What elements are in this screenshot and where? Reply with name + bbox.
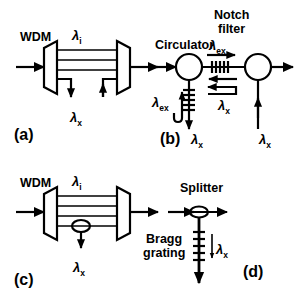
panel-b-label: (b) — [160, 130, 180, 147]
panel-c-lambda-x-symbol: λ — [72, 260, 80, 275]
panel-b-lambda-ex-left-subscript: ex — [159, 103, 169, 113]
panel-b-notch-label-line2: filter — [218, 22, 245, 36]
panel-a-lambda-i-subscript: i — [79, 36, 81, 46]
panel-b-notch-label-line1: Notch — [214, 8, 249, 22]
panel-d-label: (d) — [243, 263, 263, 280]
panel-c-lambda-x-subscript: x — [80, 268, 85, 278]
panel-b-lambda-x-drop-subscript: x — [198, 140, 203, 150]
panel-b-lambda-ex-top-symbol: λ — [208, 38, 216, 53]
panel-b-lambda-x-add-symbol: λ — [258, 132, 266, 147]
panel-d-lambda-x-symbol: λ — [215, 242, 223, 257]
panel-a-lambda-i-symbol: λ — [71, 28, 79, 43]
panel-c-wdm-label: WDM — [20, 176, 51, 190]
panel-b-circulator-label: Circulator — [155, 38, 214, 52]
panel-a-wdm-label: WDM — [20, 30, 51, 44]
panel-a-label: (a) — [14, 126, 34, 143]
panel-b-lambda-x-mid-symbol: λ — [217, 98, 225, 113]
panel-d-lambda-x-subscript: x — [223, 250, 228, 260]
panel-a-lambda-x-subscript: x — [77, 118, 82, 128]
panel-c-label: (c) — [14, 271, 34, 288]
panel-a-lambda-x-symbol: λ — [69, 110, 77, 125]
panel-b-lambda-x-drop-symbol: λ — [190, 132, 198, 147]
panel-b-lambda-ex-top-subscript: ex — [216, 46, 226, 56]
panel-d-bragg-label-line2: grating — [143, 246, 185, 260]
figure-root: WDM λi λx (a) — [0, 0, 297, 289]
panel-b-lambda-x-add-subscript: x — [266, 140, 271, 150]
panel-d-splitter-label: Splitter — [180, 181, 223, 195]
optical-adm-diagram: WDM λi λx (a) — [0, 0, 297, 289]
panel-d-bragg-label-line1: Bragg — [146, 232, 182, 246]
panel-c-lambda-i-subscript: i — [79, 182, 81, 192]
panel-c-lambda-i-symbol: λ — [71, 174, 79, 189]
panel-b-lambda-ex-left-symbol: λ — [151, 95, 159, 110]
panel-b-lambda-x-mid-subscript: x — [225, 106, 230, 116]
